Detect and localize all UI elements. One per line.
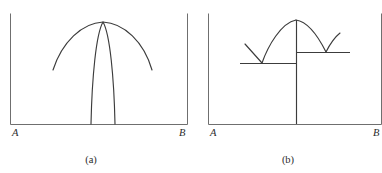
figure-canvas: A B (a) A B — [0, 0, 382, 173]
panel-b-right-label: B — [373, 127, 380, 138]
panel-b-left-arc-curve — [262, 20, 296, 63]
panel-b-right-arc-curve — [296, 20, 326, 52]
panel-b-left-label: A — [209, 127, 217, 138]
panel-a-frame — [11, 14, 188, 125]
panel-a-wide-arc-curve — [53, 22, 152, 70]
panel-a-left-label: A — [11, 127, 19, 138]
panel-b-left-v-arm — [245, 44, 262, 63]
panel-b-right-v-arm — [326, 33, 340, 52]
panel-a-caption: (a) — [85, 154, 97, 166]
panel-b-caption: (b) — [282, 154, 295, 166]
panel-b: A B (b) — [209, 14, 382, 166]
panel-a: A B (a) — [11, 14, 188, 166]
figure-root: A B (a) A B — [0, 0, 382, 173]
panel-a-narrow-spike-curve — [91, 22, 115, 124]
panel-a-right-label: B — [179, 127, 186, 138]
panel-b-frame — [209, 14, 382, 125]
